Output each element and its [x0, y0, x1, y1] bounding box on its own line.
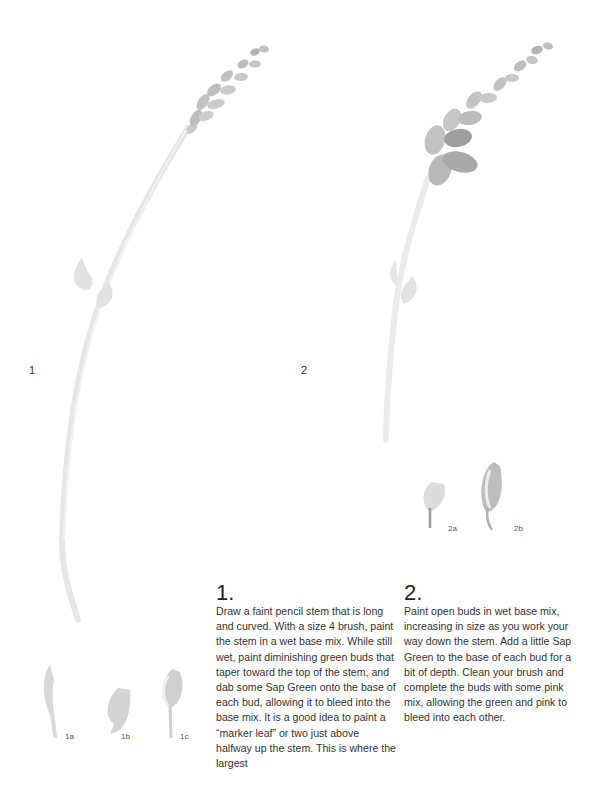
step-2-number: 2. — [404, 582, 584, 604]
sub-figure-1c-label: 1c — [180, 732, 188, 741]
figure-2-stem-illustration — [386, 41, 554, 440]
sub-figure-1a-label: 1a — [65, 732, 74, 741]
step-1: 1. Draw a faint pencil stem that is long… — [216, 582, 396, 771]
figure-2-marker-leaf — [401, 276, 417, 304]
sub-figure-2b-label: 2b — [514, 524, 523, 533]
sub-figure-1c-shape — [163, 669, 183, 738]
step-2-text: Paint open buds in wet base mix, increas… — [404, 604, 584, 726]
figure-1-stem — [62, 128, 188, 620]
figure-1-label: 1 — [29, 364, 35, 376]
figure-1-stem-illustration — [62, 45, 270, 620]
figure-2-label: 2 — [301, 364, 307, 376]
figure-2-stem — [386, 178, 428, 440]
sub-figure-2a-label: 2a — [448, 524, 457, 533]
figure-2-buds — [421, 41, 553, 188]
sub-figure-1b-shape — [108, 688, 131, 734]
sub-figure-1b-label: 1b — [121, 732, 130, 741]
sub-figure-2a-shape — [424, 482, 446, 528]
step-1-number: 1. — [216, 582, 396, 604]
figure-1-marker-leaf — [74, 258, 92, 290]
step-1-text: Draw a faint pencil stem that is long an… — [216, 604, 396, 771]
figure-1-stem-highlight — [64, 130, 186, 540]
sub-figure-2b-shape — [481, 462, 501, 530]
sub-figure-1a-shape — [44, 665, 57, 738]
figure-1-buds — [184, 45, 269, 136]
step-2: 2. Paint open buds in wet base mix, incr… — [404, 582, 584, 726]
figure-2-marker-leaf — [390, 260, 398, 286]
